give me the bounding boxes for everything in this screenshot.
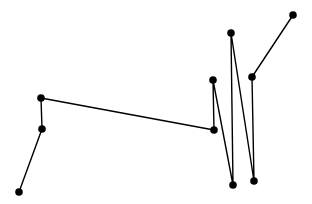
plot-markers <box>15 11 297 196</box>
data-point-marker <box>15 188 23 196</box>
data-point-marker <box>38 125 46 133</box>
plot-line <box>19 15 293 192</box>
data-point-marker <box>248 73 256 81</box>
data-point-marker <box>289 11 297 19</box>
data-point-marker <box>229 181 237 189</box>
data-point-marker <box>227 29 235 37</box>
data-point-marker <box>37 94 45 102</box>
data-point-marker <box>210 126 218 134</box>
data-point-marker <box>250 177 258 185</box>
data-point-marker <box>209 76 217 84</box>
line-plot <box>0 0 312 204</box>
